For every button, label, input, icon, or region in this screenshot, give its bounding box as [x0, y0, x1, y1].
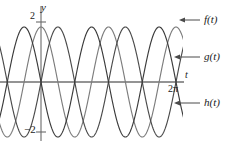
series-label-h: h(t)	[204, 97, 220, 108]
x-axis-label: t	[185, 70, 188, 80]
series-label-f: f(t)	[204, 14, 217, 25]
h-label-arrowhead-icon	[174, 100, 180, 105]
f-label-arrowhead-icon	[179, 17, 185, 22]
y-axis-label: y	[41, 2, 46, 13]
x-tick-label: 2π	[168, 84, 178, 94]
y-tick-bottom-label: −2	[24, 124, 36, 135]
figure-canvas: y 2 −2 t 2π f(t) g(t) h(t)	[0, 0, 229, 147]
g-label-arrowhead-icon	[174, 54, 180, 59]
axes-group	[0, 6, 184, 141]
series-label-g: g(t)	[204, 51, 220, 62]
y-tick-top-label: 2	[30, 11, 35, 21]
